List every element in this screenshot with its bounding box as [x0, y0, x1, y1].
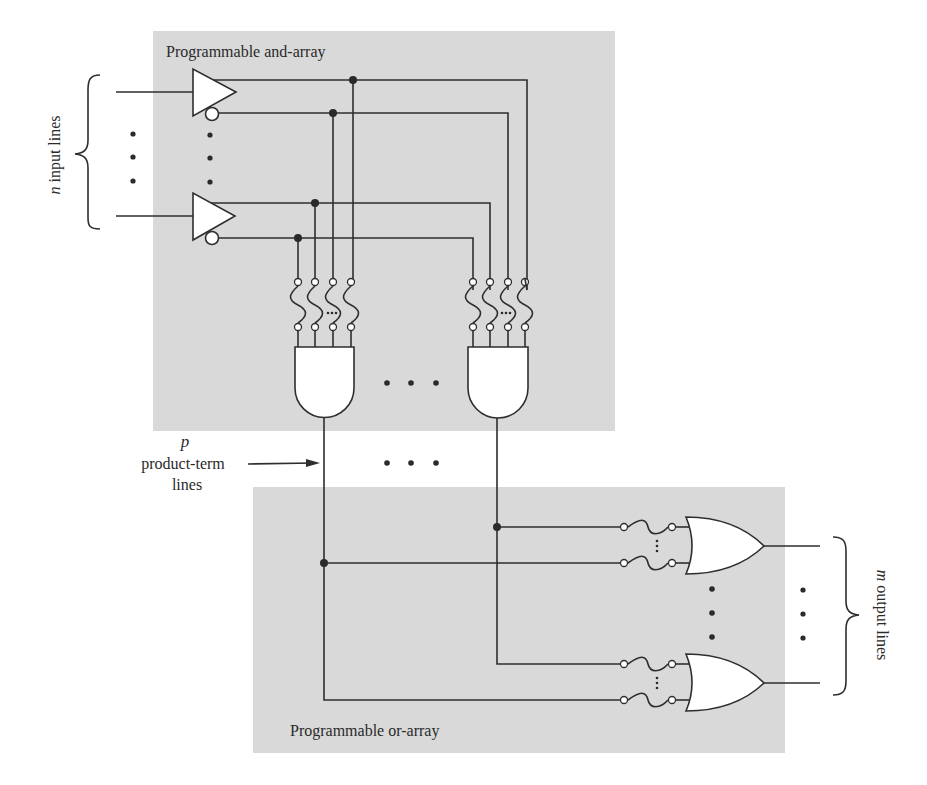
output-lines-label: m output lines [873, 570, 891, 661]
and-array-label: Programmable and-array [166, 43, 325, 61]
output-ellipsis-dot [800, 611, 805, 616]
input-lines-label: n input lines [46, 115, 64, 194]
or-ellipsis-dot [709, 610, 715, 616]
junction-dot [329, 109, 337, 117]
buffer-ellipsis-dot [207, 155, 212, 160]
input-lines-text: input lines [46, 115, 64, 186]
inversion-bubble [206, 232, 219, 245]
input-count-var: n [46, 187, 63, 195]
product-ellipsis-dot [408, 460, 414, 466]
product-ellipsis-dot [384, 460, 390, 466]
output-count-var: m [874, 570, 891, 582]
and-ellipsis-dot [384, 380, 390, 386]
product-term-label: product-term [141, 455, 225, 473]
junction-dot [349, 76, 357, 84]
or-ellipsis-dot [709, 634, 715, 640]
and-gate-p [468, 347, 528, 418]
and-gate-1 [295, 347, 354, 418]
junction-dot [493, 523, 501, 531]
input-ellipsis-dot [130, 131, 135, 136]
output-ellipsis-dot [800, 587, 805, 592]
junction-dot [311, 199, 319, 207]
and-ellipsis-dot [408, 380, 414, 386]
output-ellipsis-dot [800, 635, 805, 640]
product-count-var: p [180, 432, 190, 451]
buffer-ellipsis-dot [207, 132, 212, 137]
product-term-arrow [248, 463, 314, 464]
junction-dot [294, 234, 302, 242]
pla-diagram: Programmable and-array Programmable or-a… [0, 0, 927, 785]
product-term-label-line2: lines [172, 476, 202, 493]
junction-dot [320, 559, 328, 567]
buffer-ellipsis-dot [207, 179, 212, 184]
arrow-head-icon [306, 459, 320, 467]
product-ellipsis-dot [433, 460, 439, 466]
inversion-bubble [206, 108, 219, 121]
or-ellipsis-dot [709, 586, 715, 592]
output-lines-text: output lines [873, 581, 891, 660]
input-ellipsis-dot [130, 178, 135, 183]
output-brace [833, 537, 859, 695]
input-ellipsis-dot [130, 154, 135, 159]
and-ellipsis-dot [433, 380, 439, 386]
input-brace [75, 75, 100, 229]
or-array-label: Programmable or-array [290, 722, 439, 740]
